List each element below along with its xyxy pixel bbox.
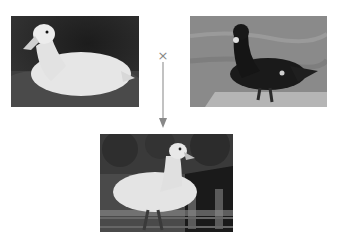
- down-arrow-icon: [158, 62, 168, 128]
- hybrid-duck-image: [100, 134, 233, 232]
- black-duck-image: [190, 16, 327, 107]
- offspring-photo-hybrid-duck: [100, 134, 233, 232]
- white-duck-image: [11, 16, 139, 107]
- parent-photo-black-duck: [190, 16, 327, 107]
- cross-symbol: ×: [157, 49, 169, 63]
- parent-photo-white-duck: [11, 16, 139, 107]
